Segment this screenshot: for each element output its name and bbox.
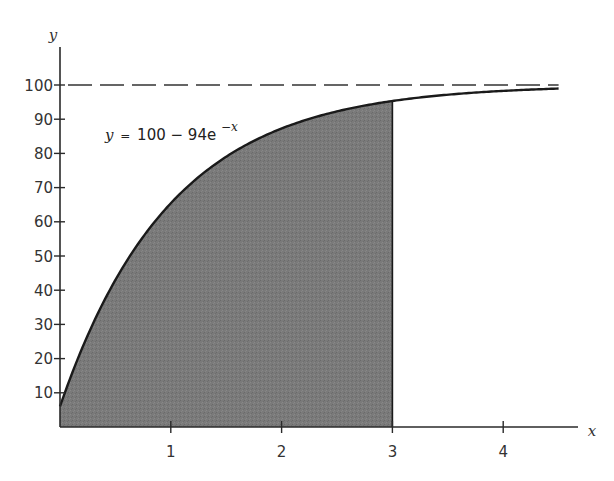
equation-equals: = xyxy=(120,129,130,143)
y-tick-label: 60 xyxy=(34,213,53,231)
equation-exponent: −x xyxy=(221,120,238,134)
y-axis-label: y xyxy=(48,26,58,44)
x-tick-label: 4 xyxy=(498,443,508,461)
y-tick-label: 20 xyxy=(34,350,53,368)
y-tick-label: 100 xyxy=(24,77,53,95)
y-tick-label: 70 xyxy=(34,179,53,197)
x-tick-label: 3 xyxy=(388,443,398,461)
shaded-area xyxy=(60,101,392,427)
equation-label: y = 100 − 94e −x xyxy=(104,120,238,144)
y-tick-label: 50 xyxy=(34,248,53,266)
equation-y: y xyxy=(104,126,114,144)
y-tick-label: 80 xyxy=(34,145,53,163)
x-axis-label: x xyxy=(588,422,597,440)
x-tick-label: 1 xyxy=(166,443,176,461)
x-tick-label: 2 xyxy=(277,443,287,461)
y-tick-label: 30 xyxy=(34,316,53,334)
y-tick-label: 10 xyxy=(34,384,53,402)
y-tick-label: 90 xyxy=(34,111,53,129)
y-tick-label: 40 xyxy=(34,282,53,300)
y-ticks: 102030405060708090100 xyxy=(24,77,65,403)
equation-body: 100 − 94e xyxy=(137,126,216,144)
chart: 102030405060708090100 1234 y x y = 100 −… xyxy=(0,0,614,481)
